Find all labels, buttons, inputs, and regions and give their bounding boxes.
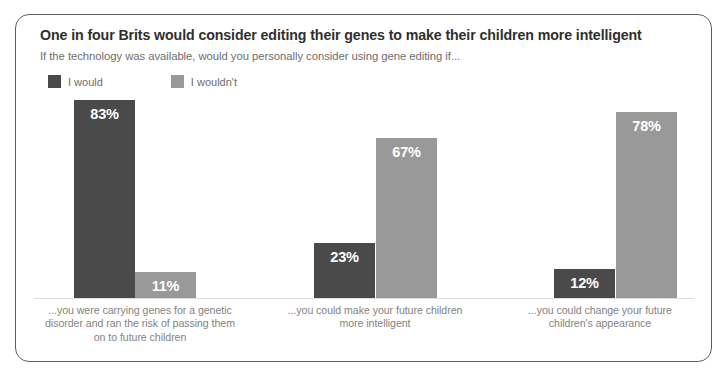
chart-card: One in four Brits would consider editing… bbox=[15, 14, 712, 362]
category-label-2: ...you could make your future childrenmo… bbox=[264, 304, 486, 331]
bar-1-i-wouldnt: 11% bbox=[135, 272, 196, 298]
bar-3-i-wouldnt: 78% bbox=[616, 112, 677, 298]
category-label-3: ...you could change your futurechildren'… bbox=[494, 304, 706, 331]
category-label-1: ...you were carrying genes for a genetic… bbox=[24, 304, 256, 344]
bar-value-label: 83% bbox=[74, 106, 135, 122]
bar-1-i-would: 83% bbox=[74, 100, 135, 298]
bar-value-label: 12% bbox=[554, 275, 615, 291]
bar-value-label: 11% bbox=[135, 278, 196, 294]
bar-3-i-would: 12% bbox=[554, 269, 615, 298]
plot-area: 83%11%23%67%12%78%...you were carrying g… bbox=[16, 15, 711, 361]
bar-value-label: 78% bbox=[616, 118, 677, 134]
bar-2-i-would: 23% bbox=[314, 243, 375, 298]
bar-value-label: 67% bbox=[376, 144, 437, 160]
bar-value-label: 23% bbox=[314, 249, 375, 265]
bar-2-i-wouldnt: 67% bbox=[376, 138, 437, 298]
axis-baseline bbox=[34, 298, 695, 299]
